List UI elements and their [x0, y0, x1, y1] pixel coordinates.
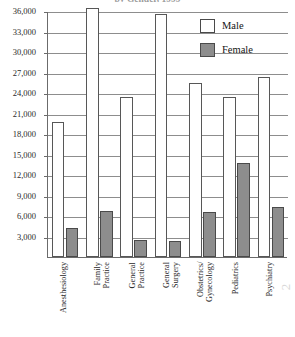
legend-item-female: Female [200, 39, 286, 60]
legend-label-female: Female [222, 44, 253, 55]
y-axis-tick [44, 217, 48, 218]
y-axis-label: 18,000 [0, 130, 36, 139]
bar-female [134, 240, 147, 257]
bar-female [169, 241, 182, 257]
y-axis-tick [44, 197, 48, 198]
bar-male [52, 122, 65, 257]
y-axis-tick [44, 135, 48, 136]
y-axis-label: 36,000 [0, 7, 36, 16]
gridline [48, 135, 288, 136]
gridline [48, 197, 288, 198]
y-axis-label: 33,000 [0, 28, 36, 37]
y-axis-tick [44, 33, 48, 34]
chart-title: by Gender, 1999 [0, 0, 295, 2]
y-axis-tick [44, 115, 48, 116]
gridline [48, 156, 288, 157]
gridline [48, 238, 288, 239]
bar-female [203, 212, 216, 257]
bar-chart: by Gender, 1999 36,00033,00030,00027,000… [0, 0, 295, 337]
x-axis-category-label: Psychiatry [265, 262, 274, 297]
bar-male [86, 8, 99, 257]
legend-label-male: Male [222, 20, 244, 31]
gridline [48, 12, 288, 13]
y-axis-label: 6,000 [0, 212, 36, 221]
bar-male [258, 77, 271, 257]
bar-male [155, 14, 168, 257]
x-axis-category-label: GeneralSurgery [162, 262, 180, 288]
x-axis-category-label: Anesthesiology [59, 262, 68, 313]
gridline [48, 176, 288, 177]
gridline [48, 94, 288, 95]
y-axis-tick [44, 238, 48, 239]
x-axis-category-label: FamilyPractice [93, 262, 111, 288]
legend-item-male: Male [200, 15, 286, 36]
bar-male [189, 83, 202, 257]
y-axis-tick [44, 176, 48, 177]
legend-swatch-male-icon [200, 19, 215, 33]
chart-legend: Male Female [200, 15, 286, 63]
x-axis-category-label: Obstetrics/Gynecology [196, 262, 214, 302]
x-axis-category-label: Pediatrics [231, 262, 240, 294]
y-axis-label: 24,000 [0, 89, 36, 98]
legend-swatch-female-icon [200, 43, 215, 57]
x-axis-category-label: GeneralPractice [128, 262, 146, 288]
bar-female [66, 228, 79, 257]
y-axis-label: 30,000 [0, 48, 36, 57]
y-axis-tick [44, 53, 48, 54]
bar-male [223, 97, 236, 257]
gridline [48, 217, 288, 218]
y-axis-label: 12,000 [0, 171, 36, 180]
bar-female [272, 207, 285, 257]
y-axis-label: 3,000 [0, 233, 36, 242]
gridline [48, 74, 288, 75]
bar-female [100, 211, 113, 257]
y-axis-label: 15,000 [0, 151, 36, 160]
scan-artifact: 2 [278, 284, 294, 291]
y-axis-tick [44, 156, 48, 157]
gridline [48, 115, 288, 116]
y-axis-tick [44, 74, 48, 75]
y-axis-label: 21,000 [0, 110, 36, 119]
y-axis-tick [44, 12, 48, 13]
y-axis-tick [44, 94, 48, 95]
y-axis-label: 27,000 [0, 69, 36, 78]
bar-male [120, 97, 133, 257]
bar-female [237, 163, 250, 257]
y-axis-label: 9,000 [0, 192, 36, 201]
